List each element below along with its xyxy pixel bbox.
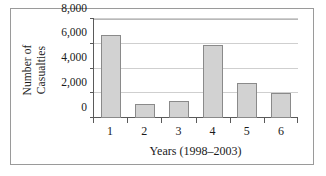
x-tick-mark [264,118,265,123]
bar-slot [94,19,128,118]
bar-slot [196,19,230,118]
x-tick-mark [93,118,94,123]
y-axis-title-line-2: Casualties [34,44,48,95]
bar-1[interactable] [101,35,121,118]
y-axis-title: Number of Casualties [14,18,54,122]
x-tick-mark [297,118,298,123]
x-tick-label-5: 5 [244,124,250,139]
plot-area: 02,0004,0006,0008,000 [93,19,298,118]
bar-3[interactable] [169,101,189,118]
y-tick-label: 0 [81,101,87,113]
x-tick-label-6: 6 [278,124,284,139]
x-tick-mark [161,118,162,123]
y-tick-label: 8,000 [61,2,87,14]
x-axis: 123456 [93,118,298,146]
bar-5[interactable] [237,83,257,118]
x-tick-mark [230,118,231,123]
x-tick-mark [196,118,197,123]
x-tick-label-1: 1 [107,124,113,139]
bar-slot [264,19,298,118]
bar-slot [230,19,264,118]
y-tick-label: 6,000 [61,26,87,38]
y-tick-label: 4,000 [61,51,87,63]
y-axis-title-line-1: Number of [20,44,34,95]
bar-6[interactable] [271,93,291,118]
y-tick-label: 2,000 [61,76,87,88]
bar-2[interactable] [135,104,155,118]
bar-series [94,19,298,118]
x-tick-label-4: 4 [210,124,216,139]
x-tick-label-2: 2 [141,124,147,139]
y-axis-title-text: Number of Casualties [20,44,48,95]
x-tick-mark [127,118,128,123]
x-tick-label-3: 3 [175,124,181,139]
bar-slot [162,19,196,118]
bar-slot [128,19,162,118]
bar-chart-figure: Number of Casualties 02,0004,0006,0008,0… [0,0,326,176]
bar-4[interactable] [203,45,223,118]
x-axis-title: Years (1998–2003) [93,144,298,159]
